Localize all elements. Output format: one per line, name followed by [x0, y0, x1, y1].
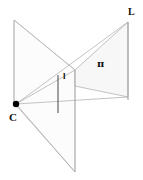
label-camera-center: C: [9, 112, 17, 123]
label-world-line: L: [128, 7, 135, 17]
label-image-line: l: [63, 72, 66, 81]
projection-diagram-svg: [0, 0, 143, 180]
label-world-plane: π: [97, 59, 104, 69]
camera-center-point: [13, 101, 19, 107]
figure-canvas: C L π l: [0, 0, 143, 180]
image-plane-shape: [14, 20, 75, 172]
